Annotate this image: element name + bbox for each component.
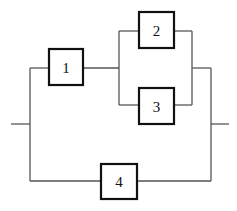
block-2-label: 2 [153,23,161,39]
block-3: 3 [139,88,174,124]
block-3-label: 3 [153,99,161,115]
block-1: 1 [49,49,83,85]
block-1-label: 1 [62,60,70,76]
block-4: 4 [101,164,137,199]
block-2: 2 [139,12,174,48]
block-4-label: 4 [115,174,123,190]
reliability-diagram: 1 2 3 4 [0,0,237,211]
